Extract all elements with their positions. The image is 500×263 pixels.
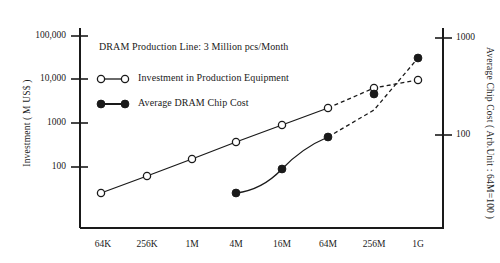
left-tick-label-10000: 10,000 (8, 73, 66, 83)
investment-point-256K (143, 172, 150, 179)
investment-point-64K (97, 189, 104, 196)
investment-line-solid (101, 108, 328, 193)
legend-marker-filled-circle-right (121, 100, 129, 108)
right-tick-label-100: 100 (456, 129, 496, 139)
investment-point-1M (188, 155, 195, 162)
left-tick-label-100000: 100,000 (8, 30, 66, 40)
x-tick-label-64M: 64M (306, 239, 350, 249)
x-tick-label-1M: 1M (170, 239, 214, 249)
legend-label-chipcost: Average DRAM Chip Cost (138, 97, 249, 108)
plot-area (0, 0, 500, 263)
dram-investment-chart: Investment ( M US$ ) Average Chip Cost (… (0, 0, 500, 263)
legend-label-investment: Investment in Production Equipment (138, 72, 289, 83)
chipcost-point-16M (278, 165, 286, 173)
left-tick-label-100: 100 (8, 161, 66, 171)
investment-point-1G (414, 76, 421, 83)
chipcost-point-4M (232, 189, 240, 197)
x-tick-label-64K: 64K (81, 239, 125, 249)
investment-point-64M (324, 104, 331, 111)
right-tick-label-1000: 1000 (456, 32, 496, 42)
x-tick-label-256K: 256K (125, 239, 169, 249)
x-tick-label-4M: 4M (214, 239, 258, 249)
x-tick-label-1G: 1G (396, 239, 440, 249)
left-tick-label-1000: 1000 (8, 117, 66, 127)
legend-marker-filled-circle-left (97, 100, 105, 108)
investment-point-4M (232, 138, 239, 145)
legend-marker-open-circle-right (121, 75, 128, 82)
legend-marker-open-circle-left (97, 75, 104, 82)
chipcost-point-1G (414, 54, 422, 62)
investment-point-16M (278, 121, 285, 128)
x-tick-label-256M: 256M (352, 239, 396, 249)
chipcost-point-64M (324, 133, 332, 141)
chipcost-point-256M (370, 90, 378, 98)
x-tick-label-16M: 16M (260, 239, 304, 249)
production-line-annotation: DRAM Production Line: 3 Million pcs/Mont… (99, 41, 288, 52)
